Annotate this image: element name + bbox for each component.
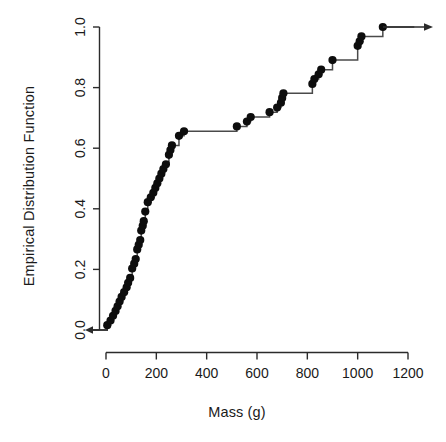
ecdf-data-point — [168, 141, 176, 149]
ecdf-data-point — [279, 89, 287, 97]
y-axis-group: 0.00.20.40.60.81.0 — [72, 17, 100, 340]
x-tick-label: 600 — [245, 365, 269, 381]
ecdf-plot-figure: 0.00.20.40.60.81.0 020040060080010001200… — [0, 0, 446, 442]
ecdf-data-point — [132, 255, 140, 263]
x-axis-title: Mass (g) — [208, 404, 266, 420]
ecdf-data-point — [141, 207, 149, 215]
ecdf-data-point — [140, 217, 148, 225]
x-tick-label-group: 020040060080010001200 — [102, 365, 424, 381]
x-tick-label: 1200 — [392, 365, 423, 381]
ecdf-data-point — [136, 236, 144, 244]
x-tick-label: 800 — [296, 365, 320, 381]
x-tick-label: 200 — [145, 365, 169, 381]
x-axis-group: 020040060080010001200 — [102, 353, 424, 382]
y-tick-label: 0.2 — [72, 259, 88, 279]
ecdf-data-points — [103, 23, 387, 329]
x-tick-label: 400 — [195, 365, 219, 381]
y-tick-label-group: 0.00.20.40.60.81.0 — [72, 17, 88, 340]
chart-canvas: 0.00.20.40.60.81.0 020040060080010001200… — [0, 0, 446, 442]
ecdf-data-point — [180, 127, 188, 135]
right-arrow-head-icon — [424, 23, 433, 31]
ecdf-data-point — [233, 122, 241, 130]
y-axis-title: Empirical Distribution Function — [21, 86, 37, 286]
ecdf-data-point — [265, 108, 273, 116]
y-tick-label: 0.4 — [72, 199, 88, 219]
x-tick-label: 0 — [102, 365, 110, 381]
y-tick-marks — [93, 27, 100, 330]
x-tick-marks — [106, 353, 408, 360]
y-tick-label: 1.0 — [72, 17, 88, 37]
ecdf-data-point — [126, 274, 134, 282]
ecdf-data-point — [357, 32, 365, 40]
right-tail-arrow — [383, 23, 433, 31]
ecdf-step-path-group — [92, 27, 414, 330]
x-tick-label: 1000 — [342, 365, 373, 381]
y-tick-label: 0.8 — [72, 78, 88, 98]
ecdf-data-point — [328, 56, 336, 64]
ecdf-data-point — [247, 113, 255, 121]
ecdf-data-point — [162, 160, 170, 168]
ecdf-data-point — [317, 66, 325, 74]
ecdf-step-path — [92, 27, 414, 330]
y-tick-label: 0.6 — [72, 138, 88, 158]
